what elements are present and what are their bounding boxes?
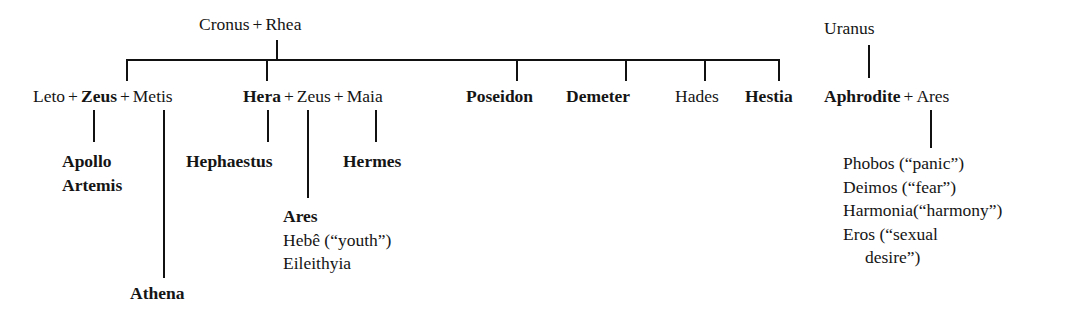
connector-aphrodite-ares-children <box>930 110 932 148</box>
offspring-label-harmonia: Harmonia(“harmony”) <box>843 199 1002 223</box>
connector-drop-demeter <box>625 59 627 81</box>
offspring-label-athena: Athena <box>130 282 184 306</box>
offspring-label-hebe: Hebê (“youth”) <box>283 229 391 253</box>
node-hera-zeus-maia: Hera+Zeus+Maia <box>243 88 383 106</box>
connector-uranus-aphrodite <box>868 45 870 78</box>
node-demeter: Demeter <box>566 88 630 106</box>
node-label-metis: Metis <box>133 86 173 106</box>
offspring-hera-zeus: Ares Hebê (“youth”) Eileithyia <box>283 205 391 276</box>
connector-drop-hera <box>266 59 268 81</box>
connector-hera-hephaestus <box>267 110 269 142</box>
offspring-label-artemis: Artemis <box>62 174 122 198</box>
node-label-rhea: Rhea <box>265 14 301 34</box>
connector-hera-zeus-children <box>307 110 309 198</box>
connector-cronus-rhea-stem <box>276 40 278 60</box>
node-leto-zeus-metis: Leto+Zeus+Metis <box>33 88 173 106</box>
offspring-label-ares: Ares <box>283 205 391 229</box>
offspring-zeus-maia: Hermes <box>343 150 401 174</box>
joiner-plus: + <box>250 14 266 34</box>
offspring-label-hephaestus: Hephaestus <box>186 150 273 174</box>
connector-drop-zeus <box>126 59 128 81</box>
node-poseidon: Poseidon <box>466 88 533 106</box>
connector-leto-zeus-children <box>93 110 95 142</box>
node-hades: Hades <box>675 88 719 106</box>
joiner-plus-leto-zeus: + <box>65 86 81 106</box>
node-uranus: Uranus <box>824 20 875 38</box>
joiner-plus-aphrodite-ares: + <box>901 86 917 106</box>
joiner-plus-zeus-maia: + <box>331 86 347 106</box>
family-tree-diagram: Cronus+Rhea Uranus Leto+Zeus+Metis Hera+… <box>0 0 1090 310</box>
joiner-plus-hera-zeus: + <box>281 86 297 106</box>
joiner-plus-zeus-metis: + <box>117 86 133 106</box>
node-label-maia: Maia <box>347 86 383 106</box>
node-label-aphrodite: Aphrodite <box>824 86 901 106</box>
offspring-label-phobos: Phobos (“panic”) <box>843 152 1002 176</box>
offspring-zeus-metis: Athena <box>130 282 184 306</box>
node-label-cronus: Cronus <box>199 14 250 34</box>
connector-drop-poseidon <box>516 59 518 81</box>
node-label-zeus-1: Zeus <box>81 86 117 106</box>
node-label-leto: Leto <box>33 86 65 106</box>
node-label-hera: Hera <box>243 86 281 106</box>
node-hestia: Hestia <box>745 88 793 106</box>
connector-zeus-maia-hermes <box>375 110 377 142</box>
offspring-label-apollo: Apollo <box>62 150 122 174</box>
offspring-label-deimos: Deimos (“fear”) <box>843 176 1002 200</box>
node-label-zeus-2: Zeus <box>297 86 331 106</box>
offspring-label-eros-cont: desire”) <box>843 246 1002 270</box>
node-aphrodite-ares: Aphrodite+Ares <box>824 88 949 106</box>
node-cronus-rhea: Cronus+Rhea <box>199 16 301 34</box>
offspring-leto-zeus: Apollo Artemis <box>62 150 122 197</box>
offspring-label-eileithyia: Eileithyia <box>283 252 391 276</box>
connector-drop-hestia <box>778 59 780 81</box>
offspring-label-hermes: Hermes <box>343 150 401 174</box>
connector-drop-hades <box>704 59 706 81</box>
connector-zeus-metis-athena <box>163 110 165 278</box>
connector-sibling-bar <box>126 59 780 61</box>
node-label-ares-consort: Ares <box>916 86 949 106</box>
offspring-aphrodite-ares: Phobos (“panic”) Deimos (“fear”) Harmoni… <box>843 152 1002 270</box>
offspring-label-eros: Eros (“sexual <box>843 223 1002 247</box>
offspring-hera-alone: Hephaestus <box>186 150 273 174</box>
